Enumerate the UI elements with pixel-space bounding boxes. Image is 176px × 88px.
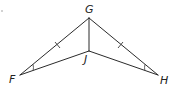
- label-g: G: [85, 3, 94, 16]
- label-h: H: [160, 74, 168, 87]
- label-j: J: [82, 53, 87, 66]
- segment-fj: [20, 51, 89, 75]
- stray-marker: [1, 10, 3, 12]
- congruent-triangles-diagram: G F H J: [0, 0, 176, 88]
- label-f: F: [9, 73, 16, 86]
- segment-gh: [89, 18, 158, 75]
- segment-fg: [20, 18, 89, 75]
- segment-jh: [89, 51, 158, 75]
